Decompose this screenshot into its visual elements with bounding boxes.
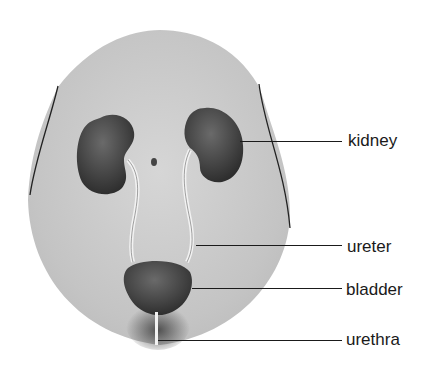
label-urethra: urethra [346, 331, 400, 348]
label-kidney: kidney [348, 132, 397, 149]
label-ureter: ureter [347, 238, 391, 255]
bladder-leader-line [192, 288, 342, 289]
label-bladder: bladder [346, 281, 403, 298]
navel [151, 158, 157, 166]
urinary-system-illustration [0, 0, 440, 373]
ureter-leader-line [196, 245, 342, 246]
urethra-leader-line [158, 340, 342, 341]
kidney-leader-line [240, 141, 342, 142]
